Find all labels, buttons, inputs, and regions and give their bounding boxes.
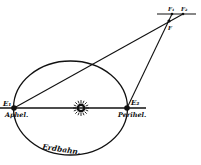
earth-perihelion-point <box>124 105 130 111</box>
label-aphelion: Aphel. <box>4 111 28 119</box>
star-pos2-point <box>182 13 185 16</box>
label-perihelion: Perihel. <box>117 111 146 119</box>
sightline-aphelion <box>14 14 183 108</box>
label-e1: E₁ <box>2 99 11 108</box>
earth-aphelion-point <box>11 105 17 111</box>
label-star-pos1: F₁ <box>167 6 174 12</box>
label-star: F <box>167 25 173 31</box>
orbit-parallax-diagram: E₁ Aphel. E₂ Perihel. Erdbahn. F F₁ F₂ <box>0 0 201 165</box>
star-pos1-point <box>171 13 174 16</box>
star-point <box>167 19 170 22</box>
label-star-pos2: F₂ <box>180 6 188 12</box>
sightline-perihelion <box>127 14 172 108</box>
label-e2: E₂ <box>130 98 139 107</box>
